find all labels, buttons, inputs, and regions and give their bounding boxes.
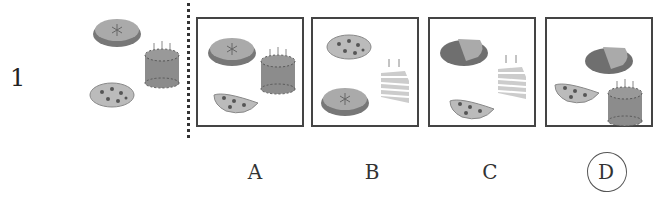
option-b-label: B — [357, 160, 387, 184]
reference-figure — [80, 0, 185, 130]
option-a-label: A — [240, 160, 270, 184]
option-c-box[interactable] — [428, 17, 536, 127]
question-number: 1 — [10, 64, 25, 92]
option-b-box[interactable] — [311, 17, 419, 127]
dotted-divider — [187, 3, 190, 138]
answer-circle-mark — [584, 149, 630, 195]
option-d-box[interactable] — [545, 17, 653, 127]
option-a-box[interactable] — [196, 17, 304, 127]
option-c-label: C — [475, 160, 505, 184]
